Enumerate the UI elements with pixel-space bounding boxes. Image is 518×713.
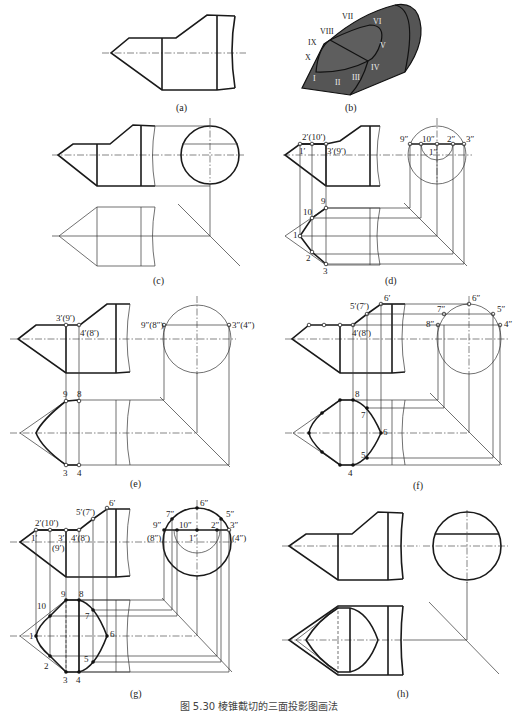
- label-g-side-9: 9″: [153, 521, 161, 530]
- label-g-top-6: 6: [110, 630, 115, 639]
- label-f-side-4: 4″: [504, 320, 512, 329]
- label-d-side-9: 9″: [400, 135, 408, 144]
- label-f-front-5-7: 5′(7′): [350, 302, 369, 311]
- label-g-front-1: 1′: [31, 534, 37, 543]
- panel-a-drawing: [102, 15, 246, 90]
- label-g-top-3: 3: [63, 676, 68, 685]
- label-g-top-7: 7: [85, 612, 90, 621]
- caption-a: (a): [176, 102, 187, 113]
- svg-text:VI: VI: [373, 17, 382, 26]
- label-e-side-9-8: 9″(8″): [141, 321, 164, 330]
- label-d-front-1: 1′: [299, 147, 305, 156]
- label-d-top-1: 1: [293, 231, 298, 240]
- svg-text:V: V: [380, 41, 386, 50]
- svg-text:II: II: [335, 78, 341, 87]
- label-d-side-3: 3″: [466, 135, 474, 144]
- label-g-side-10: 10″: [179, 521, 192, 530]
- svg-text:VII: VII: [342, 12, 353, 21]
- label-e-top-8: 8: [77, 390, 82, 399]
- label-g-side-6: 6″: [200, 499, 208, 508]
- caption-e: (e): [130, 478, 141, 489]
- label-f-side-8: 8″: [426, 320, 434, 329]
- label-d-top-3: 3: [323, 267, 328, 276]
- panel-h-drawing: [282, 510, 508, 675]
- svg-text:I: I: [313, 74, 316, 83]
- label-d-top-2: 2: [306, 254, 311, 263]
- label-g-side-7: 7″: [166, 510, 174, 519]
- label-g-top-4: 4: [76, 676, 81, 685]
- label-g-top-10: 10: [37, 602, 46, 611]
- label-g-top-9: 9: [61, 590, 66, 599]
- label-d-side-1: 1″: [429, 148, 437, 157]
- label-g-front-4-8: 4′(8′): [71, 534, 90, 543]
- label-d-top-9: 9: [321, 197, 326, 206]
- label-g-side-8: (8″): [147, 534, 161, 543]
- label-g-side-5: 5″: [226, 510, 234, 519]
- svg-text:IV: IV: [371, 63, 380, 72]
- svg-text:VIII: VIII: [320, 27, 334, 36]
- label-g-front-9: (9′): [52, 544, 64, 553]
- panel-b-3d-view: VII VIII IX X VI V IV I II III: [302, 4, 421, 95]
- caption-f: (f): [413, 480, 423, 491]
- label-e-front-3-9: 3′(9′): [56, 314, 75, 323]
- label-g-front-3: 3′: [58, 534, 64, 543]
- label-f-top-7: 7: [361, 411, 366, 420]
- label-g-top-8: 8: [79, 590, 84, 599]
- label-g-top-1: 1: [29, 632, 34, 641]
- figure-caption: 图 5.30 棱锥截切的三面投影图画法: [0, 698, 518, 713]
- label-g-side-2: 2″: [211, 521, 219, 530]
- label-f-side-5: 5″: [497, 305, 505, 314]
- panel-c-drawing: [52, 118, 244, 266]
- label-d-front-2: 2′(10′): [302, 133, 325, 142]
- label-f-top-6: 6: [383, 428, 388, 437]
- caption-b: (b): [345, 102, 357, 113]
- label-f-front-6: 6′: [384, 294, 390, 303]
- label-g-top-2: 2: [44, 662, 49, 671]
- label-f-top-4: 4: [348, 469, 353, 478]
- label-g-side-1: 1″: [189, 534, 197, 543]
- panel-e-drawing: [10, 296, 236, 467]
- label-e-front-4-8: 4′(8′): [80, 329, 99, 338]
- label-d-top-10: 10: [303, 208, 312, 217]
- label-f-front-4-8: 4′(8′): [352, 329, 371, 338]
- label-g-front-5-7: 5′(7′): [76, 508, 95, 517]
- svg-text:IX: IX: [308, 38, 317, 47]
- svg-text:III: III: [352, 73, 360, 82]
- label-e-top-3: 3: [63, 469, 68, 478]
- label-f-side-6: 6″: [472, 294, 480, 303]
- label-f-top-8: 8: [355, 390, 360, 399]
- caption-d: (d): [385, 275, 397, 286]
- label-d-side-2: 2″: [447, 135, 455, 144]
- svg-text:X: X: [305, 53, 311, 62]
- panel-f-drawing: [285, 296, 508, 467]
- label-f-side-7: 7″: [437, 305, 445, 314]
- label-d-front-3: 3′(9′): [327, 147, 346, 156]
- label-g-side-4: (4″): [232, 534, 246, 543]
- label-g-front-6: 6′: [109, 499, 115, 508]
- label-d-side-10: 10″: [422, 135, 435, 144]
- caption-c: (c): [153, 275, 164, 286]
- label-e-top-9: 9: [63, 390, 68, 399]
- label-e-side-3-4: 3″(4″): [232, 321, 255, 330]
- label-g-top-5: 5: [84, 655, 89, 664]
- label-g-side-3: 3″: [230, 521, 238, 530]
- label-e-top-4: 4: [77, 469, 82, 478]
- label-g-front-2-10: 2′(10′): [35, 519, 58, 528]
- label-f-top-5: 5: [361, 451, 366, 460]
